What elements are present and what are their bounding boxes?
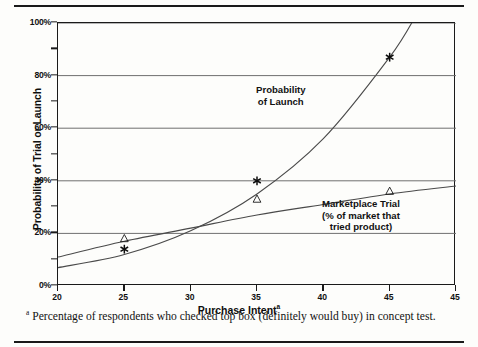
- annotation-trial-line-1: Marketplace Trial: [322, 198, 400, 210]
- x-axis-tick-label: 30: [185, 292, 195, 302]
- y-axis: 0%20%40%60%80%100%: [0, 0, 57, 310]
- footnote-marker: a: [26, 308, 29, 317]
- data-point-asterisk: [121, 245, 129, 254]
- bottom-rule: [14, 341, 464, 343]
- annotation-marketplace-trial: Marketplace Trial (% of market that trie…: [322, 198, 400, 233]
- annotation-launch-line-1: Probability: [256, 84, 306, 96]
- x-axis-tick-label: 20: [52, 292, 62, 302]
- plot-canvas: [58, 23, 456, 286]
- x-axis-tick-mark: [322, 285, 323, 291]
- x-axis-tick-mark: [389, 285, 390, 291]
- annotation-trial-line-2: (% of market that: [322, 210, 400, 222]
- y-axis-tick-label: 20%: [34, 227, 51, 237]
- x-axis-tick-mark: [190, 285, 191, 291]
- footnote-text: Percentage of respondents who checked to…: [32, 310, 435, 323]
- y-axis-tick-label: 40%: [34, 175, 51, 185]
- annotation-launch-line-2: of Launch: [256, 96, 306, 108]
- y-axis-tick-label: 100%: [30, 17, 51, 27]
- x-axis-tick-label: 45: [450, 292, 460, 302]
- exhibit-figure: Probability of Trial or Launch 0%20%40%6…: [0, 0, 478, 347]
- y-axis-tick-label: 0%: [39, 280, 51, 290]
- footnote: a Percentage of respondents who checked …: [26, 306, 456, 324]
- y-axis-tick-label: 60%: [34, 122, 51, 132]
- x-axis-tick-label: 40: [318, 292, 328, 302]
- x-axis-tick-label: 35: [251, 292, 261, 302]
- annotation-trial-line-3: tried product): [322, 221, 400, 233]
- x-axis-tick-mark: [455, 285, 456, 291]
- top-rule: [14, 5, 464, 7]
- y-axis-tick-label: 80%: [34, 70, 51, 80]
- x-axis-tick-label: 25: [119, 292, 129, 302]
- x-axis-tick-mark: [57, 285, 58, 291]
- plot-area: [57, 22, 455, 285]
- x-axis-tick-mark: [123, 285, 124, 291]
- annotation-probability-of-launch: Probability of Launch: [256, 84, 306, 107]
- x-axis-tick-label: 45: [384, 292, 394, 302]
- x-axis-tick-mark: [256, 285, 257, 291]
